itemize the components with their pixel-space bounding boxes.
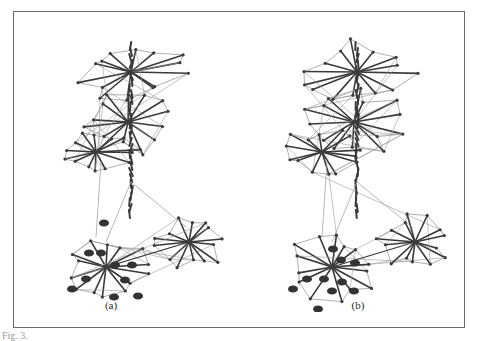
graph-node — [175, 266, 178, 269]
graph-node — [375, 237, 378, 240]
graph-edge — [294, 237, 319, 245]
graph-node — [327, 173, 330, 176]
graph-node — [355, 161, 358, 164]
graph-node — [128, 161, 131, 164]
graph-node — [293, 243, 296, 246]
graph-node — [187, 72, 190, 75]
graph-node — [413, 240, 417, 244]
highlighted-node — [337, 278, 347, 285]
graph-node — [411, 260, 414, 263]
panel-b: (b) — [240, 12, 466, 312]
graph-node — [302, 70, 305, 73]
graph-node — [334, 172, 337, 175]
graph-node — [104, 167, 107, 170]
graph-node — [153, 244, 156, 247]
graph-edge — [350, 39, 373, 52]
graph-edge — [131, 182, 186, 227]
graph-node — [382, 150, 385, 153]
graph-node — [94, 62, 97, 65]
graph-node — [100, 59, 103, 62]
graph-node — [311, 88, 314, 91]
graph-node — [324, 62, 327, 65]
graph-edge — [297, 256, 299, 273]
graph-node — [376, 135, 379, 138]
highlighted-node — [96, 249, 106, 256]
graph-node — [330, 265, 334, 269]
highlighted-node — [313, 305, 323, 312]
graph-node — [405, 212, 408, 215]
graph-node — [143, 94, 146, 97]
graph-node — [352, 120, 356, 124]
graph-node — [404, 221, 407, 224]
graph-node — [390, 262, 393, 265]
highlighted-node — [81, 275, 91, 282]
graph-node — [118, 246, 121, 249]
graph-node — [141, 153, 144, 156]
graph-node — [168, 258, 171, 261]
graph-node — [81, 132, 84, 135]
graph-node — [125, 99, 128, 102]
graph-node — [341, 129, 344, 132]
graph-edge — [290, 152, 322, 160]
graph-node — [178, 61, 181, 64]
graph-node — [102, 135, 105, 138]
graph-node — [390, 229, 393, 232]
graph-edge — [129, 210, 130, 218]
graph-node — [416, 72, 419, 75]
graph-node — [153, 138, 156, 141]
graph-node — [126, 120, 130, 124]
graph-node — [322, 139, 325, 142]
graph-node — [94, 150, 98, 154]
graph-node — [439, 228, 442, 231]
graph-node — [65, 149, 68, 152]
graph-node — [74, 141, 77, 144]
graph-edge — [67, 143, 76, 151]
graph-edge — [143, 249, 149, 265]
graph-node — [101, 102, 104, 105]
graph-edge — [170, 259, 177, 267]
graph-edge — [412, 262, 430, 264]
network-graph-b — [240, 12, 466, 312]
graph-node — [131, 151, 134, 154]
graph-edge — [75, 161, 89, 167]
graph-node — [82, 125, 85, 128]
graph-node — [161, 99, 164, 102]
graph-node — [134, 48, 137, 51]
graph-edge — [334, 147, 352, 148]
graph-node — [89, 239, 92, 242]
graph-node — [76, 81, 79, 84]
graph-edge — [102, 54, 110, 62]
graph-node — [327, 97, 330, 100]
graph-edge — [154, 53, 183, 55]
graph-node — [147, 263, 150, 266]
graph-node — [395, 99, 398, 102]
graph-edge — [329, 174, 337, 235]
graph-node — [147, 272, 150, 275]
graph-edge — [298, 161, 312, 173]
graph-node — [204, 221, 207, 224]
panel-label-a: (a) — [91, 299, 131, 311]
graph-node — [74, 160, 77, 163]
highlighted-node — [110, 261, 120, 268]
graph-node — [322, 104, 325, 107]
graph-edge — [96, 162, 101, 237]
graph-node — [297, 271, 300, 274]
graph-node — [221, 237, 224, 240]
graph-node — [181, 53, 184, 56]
figure-caption: Fig. 3. — [2, 330, 28, 341]
graph-node — [187, 240, 191, 244]
graph-node — [93, 291, 96, 294]
graph-edge — [332, 182, 357, 242]
graph-node — [318, 133, 321, 136]
graph-edge — [375, 57, 396, 93]
graph-edge — [286, 134, 290, 146]
graph-edge — [131, 126, 132, 134]
graph-edge — [131, 72, 188, 73]
graph-edge — [357, 65, 397, 72]
graph-edge — [294, 244, 332, 267]
graph-edge — [106, 182, 131, 242]
graph-node — [359, 149, 362, 152]
graph-node — [359, 87, 362, 90]
graph-node — [92, 118, 95, 121]
graph-node — [297, 280, 300, 283]
